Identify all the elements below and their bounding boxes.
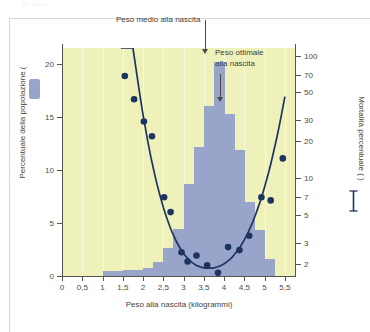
right-axis-title-text: Mortalità percentuale ( bbox=[357, 96, 366, 176]
bar-legend-swatch bbox=[29, 79, 40, 99]
x-tick bbox=[224, 276, 225, 281]
x-tick-label: 2,5 bbox=[158, 283, 169, 292]
left-axis-line bbox=[62, 44, 63, 277]
right-y-tick-label: 50 bbox=[304, 88, 313, 97]
x-tick-label: 0,5 bbox=[77, 283, 88, 292]
x-tick bbox=[123, 276, 124, 281]
mortality-data-points bbox=[122, 73, 287, 276]
right-y-tick-label: 20 bbox=[304, 137, 313, 146]
right-y-tick bbox=[296, 197, 301, 198]
x-tick-label: 4 bbox=[222, 283, 226, 292]
x-tick bbox=[184, 276, 185, 281]
right-y-tick bbox=[296, 75, 301, 76]
left-y-tick-label: 10 bbox=[45, 166, 54, 175]
right-y-tick bbox=[296, 141, 301, 142]
annotation-optimal-birth-weight: Peso ottimale alla nascita bbox=[215, 47, 263, 69]
x-tick-label: 2 bbox=[141, 283, 145, 292]
annotation-mean-birth-weight: Peso medio alla nascita bbox=[116, 14, 201, 25]
mortality-data-point bbox=[161, 194, 168, 201]
right-y-tick bbox=[296, 264, 301, 265]
left-y-tick-label: 0 bbox=[50, 272, 54, 281]
bottom-axis-line bbox=[62, 276, 296, 277]
page-left-rule bbox=[9, 18, 10, 332]
x-tick-label: 1 bbox=[100, 283, 104, 292]
left-y-tick-label: 20 bbox=[45, 59, 54, 68]
right-y-tick-label: 30 bbox=[304, 115, 313, 124]
x-tick-label: 3,5 bbox=[198, 283, 209, 292]
right-y-tick bbox=[296, 215, 301, 216]
arrow-opt-stem bbox=[220, 74, 221, 98]
mortality-data-point bbox=[258, 194, 265, 201]
left-y-tick bbox=[57, 117, 62, 118]
x-tick-label: 5,5 bbox=[279, 283, 290, 292]
right-y-tick bbox=[296, 178, 301, 179]
right-y-tick bbox=[296, 120, 301, 121]
x-tick bbox=[82, 276, 83, 281]
left-y-tick bbox=[57, 170, 62, 171]
arrow-mean-head bbox=[202, 49, 208, 54]
mortality-data-point bbox=[246, 233, 253, 240]
mortality-data-point bbox=[236, 247, 243, 254]
right-y-tick-label: 3 bbox=[304, 238, 308, 247]
right-y-tick-label: 10 bbox=[304, 174, 313, 183]
right-y-tick-label: 7 bbox=[304, 193, 308, 202]
mortality-data-point bbox=[267, 197, 274, 204]
mortality-data-point bbox=[178, 249, 185, 256]
mortality-data-point bbox=[225, 244, 232, 251]
x-tick bbox=[265, 276, 266, 281]
x-tick-label: 5 bbox=[262, 283, 266, 292]
right-y-tick-label: 70 bbox=[304, 70, 313, 79]
mortality-data-point bbox=[204, 262, 211, 269]
x-tick-label: 0 bbox=[60, 283, 64, 292]
left-axis-title: Percentuale della popolazione ( bbox=[18, 38, 27, 208]
mortality-data-point bbox=[131, 96, 138, 103]
ghost-caption: gli stessi bbox=[22, 1, 49, 7]
right-y-tick-label: 2 bbox=[304, 260, 308, 269]
x-tick bbox=[143, 276, 144, 281]
left-y-tick bbox=[57, 276, 62, 277]
x-tick bbox=[204, 276, 205, 281]
mortality-data-point bbox=[167, 209, 174, 216]
right-y-tick-label: 100 bbox=[304, 51, 317, 60]
annotation-optimal-line2: alla nascita bbox=[215, 58, 263, 69]
left-y-tick-label: 15 bbox=[45, 112, 54, 121]
mortality-curve-layer bbox=[62, 48, 295, 276]
x-tick bbox=[62, 276, 63, 281]
x-tick bbox=[103, 276, 104, 281]
mortality-data-point bbox=[141, 118, 148, 125]
x-tick bbox=[163, 276, 164, 281]
right-y-tick bbox=[296, 243, 301, 244]
right-y-tick-label: 5 bbox=[304, 211, 308, 220]
left-y-tick bbox=[57, 223, 62, 224]
mortality-data-point bbox=[184, 258, 191, 265]
mortality-data-point bbox=[280, 155, 287, 162]
right-axis-title-suffix: ) bbox=[357, 178, 366, 181]
x-axis-title: Peso alla nascita (kilogrammi) bbox=[62, 300, 296, 309]
mortality-fit-curve bbox=[121, 48, 285, 268]
x-tick-label: 1,5 bbox=[117, 283, 128, 292]
plot-area bbox=[62, 48, 295, 276]
arrow-opt-head bbox=[217, 97, 223, 102]
left-y-tick-label: 5 bbox=[50, 219, 54, 228]
x-tick bbox=[285, 276, 286, 281]
birth-weight-selection-figure: gli stessi 00,511,522,533,544,555,5 0510… bbox=[0, 0, 370, 332]
right-axis-title: Mortalità percentuale ( ) bbox=[357, 54, 366, 224]
x-tick-label: 4,5 bbox=[239, 283, 250, 292]
right-y-tick bbox=[296, 56, 301, 57]
right-y-tick bbox=[296, 92, 301, 93]
mortality-data-point bbox=[149, 133, 156, 140]
left-y-tick bbox=[57, 64, 62, 65]
x-tick-label: 3 bbox=[181, 283, 185, 292]
mortality-data-point bbox=[193, 252, 200, 259]
mortality-data-point bbox=[122, 73, 129, 80]
x-tick bbox=[244, 276, 245, 281]
arrow-mean-stem bbox=[205, 20, 206, 50]
annotation-optimal-line1: Peso ottimale bbox=[215, 47, 263, 58]
